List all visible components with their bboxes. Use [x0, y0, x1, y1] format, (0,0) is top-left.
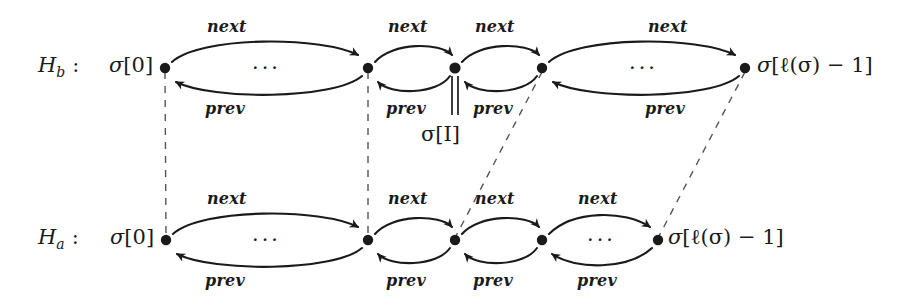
- dashed-link-vertical-1: [165, 72, 166, 236]
- node-label-ha-start: σ[0]: [110, 225, 154, 249]
- node-ha-2: [450, 235, 460, 245]
- dashed-link-diagonal-1: [456, 72, 542, 236]
- node-hb-0: [160, 63, 170, 73]
- node-ha-last: [653, 235, 663, 245]
- arc-label-prev-ha-4: prev: [577, 271, 617, 290]
- node-ha-3: [537, 235, 547, 245]
- arc-label-next-hb-3: next: [475, 17, 515, 36]
- arc-label-prev-ha-1: prev: [205, 271, 245, 290]
- arc-label-next-ha-3: next: [475, 189, 515, 208]
- sigma-i-index: [I]: [435, 122, 460, 146]
- dashed-correspondence-links: [165, 72, 745, 236]
- ellipsis-hb-1: ···: [252, 56, 281, 80]
- node-label-hb-end: σ[ℓ(σ) − 1]: [757, 53, 873, 78]
- bottom-next-arcs: [173, 214, 650, 234]
- top-prev-arc-3: [465, 76, 537, 91]
- arc-label-next-hb-2: next: [388, 17, 428, 36]
- figure-canvas: Hb: σ[0] σ[ℓ(σ) − 1] ··· ··· next next n…: [0, 0, 904, 307]
- sigma-symbol: σ: [757, 53, 771, 77]
- sigma-i-annotation: σ[I]: [421, 122, 460, 146]
- top-next-arc-2: [375, 46, 452, 62]
- arc-label-prev-hb-2: prev: [386, 99, 426, 118]
- row-label-ha: Ha:: [38, 225, 79, 252]
- arc-label-prev-ha-2: prev: [386, 271, 426, 290]
- sigma-symbol: σ: [110, 225, 124, 249]
- sigma-index: [0]: [124, 225, 154, 249]
- bottom-prev-arcs: [177, 248, 652, 267]
- arc-label-prev-ha-3: prev: [473, 271, 513, 290]
- top-next-arc-3: [462, 46, 539, 62]
- row-label-ha-colon: :: [72, 225, 79, 249]
- top-row-nodes: [160, 62, 750, 73]
- node-label-ha-end: σ[ℓ(σ) − 1]: [668, 225, 784, 250]
- arc-label-prev-hb-1: prev: [205, 99, 245, 118]
- sigma-symbol: σ: [668, 225, 682, 249]
- ellipsis-hb-2: ···: [629, 56, 658, 80]
- bottom-next-arc-3: [462, 218, 539, 234]
- bottom-prev-arc-3: [465, 248, 537, 263]
- arc-label-next-hb-1: next: [207, 17, 247, 36]
- ellipsis-ha-1: ···: [252, 228, 281, 252]
- top-prev-arc-2: [378, 76, 450, 91]
- sigma-symbol: σ: [421, 122, 435, 146]
- row-label-hb-name: H: [38, 53, 56, 77]
- arc-label-next-ha-2: next: [388, 189, 428, 208]
- sigma-index: [ℓ(σ) − 1]: [682, 225, 783, 249]
- bottom-prev-arc-2: [378, 248, 450, 263]
- arc-label-next-hb-4: next: [648, 17, 688, 36]
- node-ha-0: [161, 235, 171, 245]
- row-label-hb-colon: :: [72, 53, 79, 77]
- node-hb-i: [449, 62, 460, 73]
- row-label-ha-name: H: [38, 225, 56, 249]
- node-hb-1: [363, 63, 373, 73]
- ellipsis-ha-2: ···: [587, 228, 616, 252]
- arc-label-next-ha-4: next: [578, 189, 618, 208]
- row-label-hb: Hb:: [38, 53, 79, 80]
- node-hb-last: [740, 63, 750, 73]
- diagram-vector-layer: [0, 0, 904, 307]
- bottom-next-arc-2: [375, 218, 452, 234]
- arc-label-next-ha-1: next: [207, 189, 247, 208]
- sigma-symbol: σ: [109, 53, 123, 77]
- row-label-hb-subscript: b: [56, 64, 65, 80]
- arc-label-prev-hb-3: prev: [473, 99, 513, 118]
- sigma-index: [ℓ(σ) − 1]: [771, 53, 872, 77]
- sigma-index: [0]: [123, 53, 153, 77]
- dashed-link-diagonal-2: [659, 72, 745, 236]
- node-ha-1: [363, 235, 373, 245]
- arc-label-prev-hb-4: prev: [645, 99, 685, 118]
- node-label-hb-start: σ[0]: [109, 53, 153, 77]
- node-hb-3: [537, 63, 547, 73]
- double-bar-connector: [452, 76, 458, 115]
- row-label-ha-subscript: a: [56, 236, 64, 252]
